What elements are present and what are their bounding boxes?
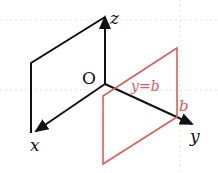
y-label: y	[189, 126, 200, 146]
x-axis	[36, 84, 105, 131]
diagram-canvas: z x y O y=b b	[0, 0, 218, 173]
z-label: z	[109, 8, 120, 28]
plane-label: y=b	[130, 78, 160, 94]
intercept-label: b	[179, 97, 189, 115]
origin-label: O	[82, 68, 96, 88]
x-label: x	[30, 135, 40, 155]
plane-y-equals-b	[103, 48, 177, 164]
diagram: z x y O y=b b	[0, 0, 218, 173]
